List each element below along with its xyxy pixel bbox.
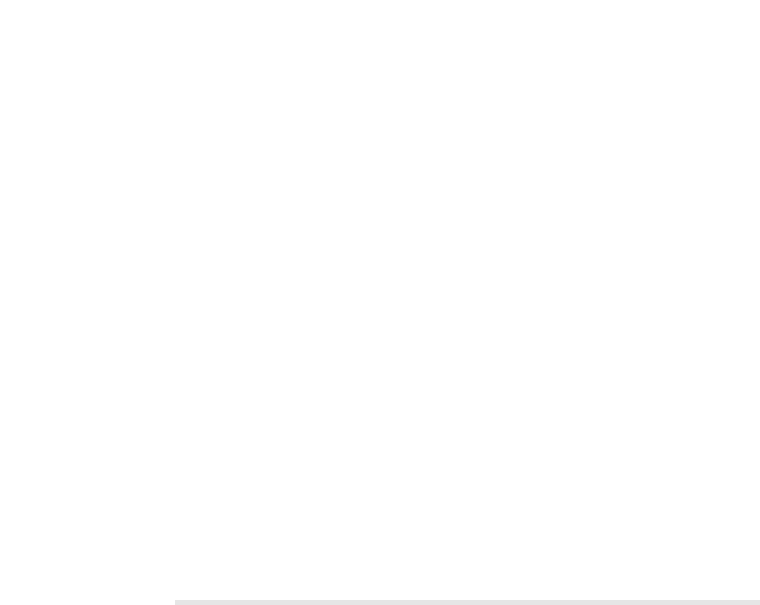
scan-edge-strip — [175, 600, 760, 605]
chart — [0, 0, 760, 605]
